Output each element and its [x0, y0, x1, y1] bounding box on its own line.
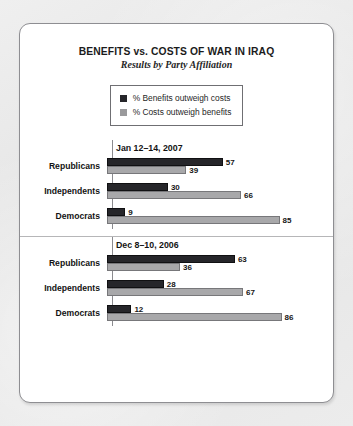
bars-republicans-2007: 57 39	[106, 158, 333, 174]
category-label-republicans-2007: Republicans	[20, 161, 106, 171]
category-label-republicans-2006: Republicans	[20, 258, 106, 268]
legend-box: % Benefits outweigh costs % Costs outwei…	[110, 85, 244, 126]
bars-democrats-2007: 9 85	[106, 208, 333, 224]
bar-group-republicans-2007: Republicans 57 39	[20, 158, 333, 174]
bar-benefits	[107, 208, 125, 216]
bar-row-benefits: 30	[107, 183, 333, 191]
bar-row-costs: 86	[107, 313, 333, 321]
bar-value-costs: 39	[189, 166, 198, 175]
bar-value-benefits: 57	[226, 158, 235, 167]
bar-group-democrats-2006: Democrats 12 86	[20, 305, 333, 321]
bar-value-benefits: 63	[238, 255, 247, 264]
bar-group-independents-2007: Independents 30 66	[20, 183, 333, 199]
bar-row-costs: 85	[107, 216, 333, 224]
chart-subtitle: Results by Party Affiliation	[20, 58, 333, 72]
bar-group-independents-2006: Independents 28 67	[20, 280, 333, 296]
panel-2007: Jan 12–14, 2007 Republicans 57 39 Indepe…	[20, 140, 333, 229]
bar-row-benefits: 63	[107, 255, 333, 263]
bars-independents-2006: 28 67	[106, 280, 333, 296]
bar-group-democrats-2007: Democrats 9 85	[20, 208, 333, 224]
category-label-independents-2007: Independents	[20, 186, 106, 196]
chart-panels: Jan 12–14, 2007 Republicans 57 39 Indepe…	[20, 140, 333, 326]
category-label-democrats-2007: Democrats	[20, 211, 106, 221]
bars-independents-2007: 30 66	[106, 183, 333, 199]
bar-value-costs: 85	[283, 216, 292, 225]
bar-row-costs: 36	[107, 263, 333, 271]
bar-group-republicans-2006: Republicans 63 36	[20, 255, 333, 271]
bars-democrats-2006: 12 86	[106, 305, 333, 321]
bar-costs	[107, 191, 241, 199]
panel-date-2006: Dec 8–10, 2006	[116, 237, 333, 255]
bar-row-benefits: 57	[107, 158, 333, 166]
bar-value-costs: 86	[285, 313, 294, 322]
bar-benefits	[107, 280, 164, 288]
bar-costs	[107, 216, 280, 224]
bar-value-costs: 36	[183, 263, 192, 272]
bar-benefits	[107, 305, 131, 313]
title-block: BENEFITS vs. COSTS OF WAR IN IRAQ Result…	[20, 45, 333, 72]
bar-value-costs: 66	[244, 191, 253, 200]
legend-swatch-benefits-icon	[120, 95, 127, 102]
category-label-democrats-2006: Democrats	[20, 308, 106, 318]
legend-label-benefits: % Benefits outweigh costs	[133, 92, 231, 105]
legend-swatch-costs-icon	[120, 109, 127, 116]
bar-costs	[107, 166, 186, 174]
bar-row-costs: 67	[107, 288, 333, 296]
bar-costs	[107, 313, 282, 321]
bar-row-costs: 39	[107, 166, 333, 174]
legend-label-costs: % Costs outweigh benefits	[133, 106, 232, 119]
bar-benefits	[107, 255, 235, 263]
bar-costs	[107, 263, 180, 271]
bar-row-benefits: 9	[107, 208, 333, 216]
bars-republicans-2006: 63 36	[106, 255, 333, 271]
bar-row-benefits: 28	[107, 280, 333, 288]
bar-row-benefits: 12	[107, 305, 333, 313]
bar-benefits	[107, 158, 223, 166]
bar-costs	[107, 288, 243, 296]
panel-2006: Dec 8–10, 2006 Republicans 63 36 Indepen…	[20, 237, 333, 326]
legend-item-benefits: % Benefits outweigh costs	[120, 92, 232, 105]
bar-row-costs: 66	[107, 191, 333, 199]
legend: % Benefits outweigh costs % Costs outwei…	[20, 85, 333, 126]
chart-card: BENEFITS vs. COSTS OF WAR IN IRAQ Result…	[19, 23, 334, 403]
chart-title: BENEFITS vs. COSTS OF WAR IN IRAQ	[20, 45, 333, 58]
bar-benefits	[107, 183, 168, 191]
category-label-independents-2006: Independents	[20, 283, 106, 293]
legend-item-costs: % Costs outweigh benefits	[120, 106, 232, 119]
panel-date-2007: Jan 12–14, 2007	[116, 140, 333, 158]
bar-value-costs: 67	[246, 288, 255, 297]
